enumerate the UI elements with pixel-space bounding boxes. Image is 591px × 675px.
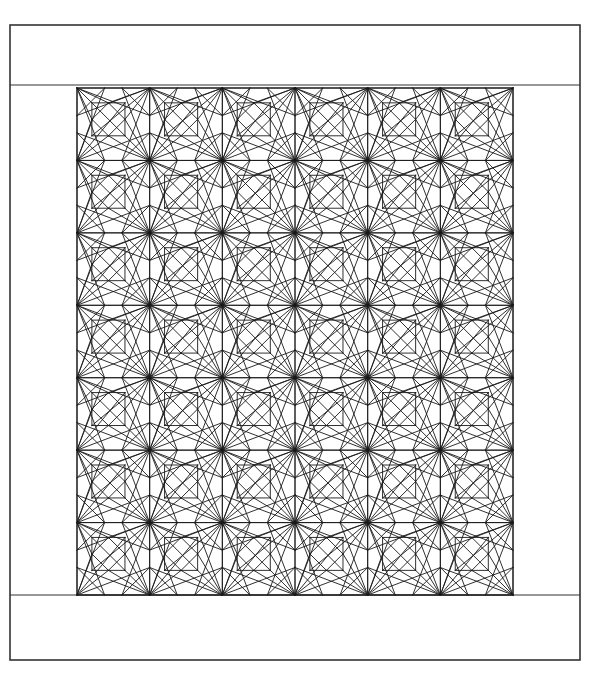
quilt-diagram — [0, 0, 591, 675]
quilt-pattern-page: QUILT PATTERN — [0, 0, 591, 675]
